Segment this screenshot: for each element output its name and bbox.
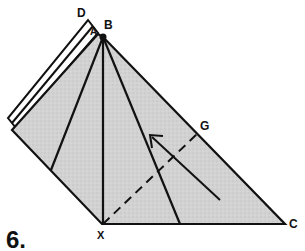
apex-point-b (100, 34, 107, 41)
label-a: A (90, 27, 97, 37)
label-b: B (104, 19, 113, 31)
label-g: G (200, 120, 209, 132)
label-d: D (77, 7, 86, 19)
diagram-drawing (0, 0, 305, 251)
label-c: C (289, 218, 298, 230)
origami-fold-diagram: D A B G X C 6. (0, 0, 305, 251)
step-number: 6. (6, 228, 26, 251)
label-x: X (97, 230, 104, 241)
